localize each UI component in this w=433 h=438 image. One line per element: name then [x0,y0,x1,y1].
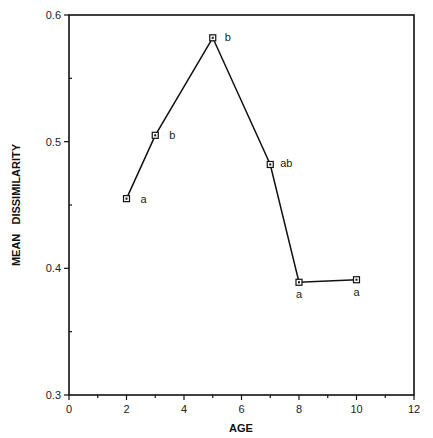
plot-frame [69,15,414,395]
significance-label: ab [280,157,292,169]
x-tick-label: 4 [181,403,187,415]
data-point-center [298,281,300,283]
x-tick-label: 8 [296,403,302,415]
y-tick-label: 0.6 [46,9,61,21]
x-tick-label: 0 [66,403,72,415]
significance-label: a [296,288,303,300]
x-tick-label: 6 [238,403,244,415]
significance-label: b [225,31,231,43]
line-chart: 0246810120.30.40.50.6 abbabaa AGE MEAN D… [0,0,433,438]
x-tick-label: 2 [123,403,129,415]
y-tick-label: 0.4 [46,262,61,274]
significance-label: a [353,286,360,298]
significance-label: a [141,193,148,205]
data-series: abbabaa [124,31,361,300]
y-tick-label: 0.5 [46,136,61,148]
x-tick-label: 10 [350,403,362,415]
data-point-center [154,134,156,136]
axis-ticks: 0246810120.30.40.50.6 [46,9,420,415]
data-point-center [212,37,214,39]
x-tick-label: 12 [408,403,420,415]
y-tick-label: 0.3 [46,389,61,401]
plot-border [69,15,414,395]
data-point-center [356,279,358,281]
data-point-center [269,163,271,165]
y-axis-title: MEAN DISSIMILARITY [10,143,22,266]
x-axis-title: AGE [229,422,253,434]
series-line [127,38,357,282]
data-point-center [126,198,128,200]
significance-label: b [169,129,175,141]
